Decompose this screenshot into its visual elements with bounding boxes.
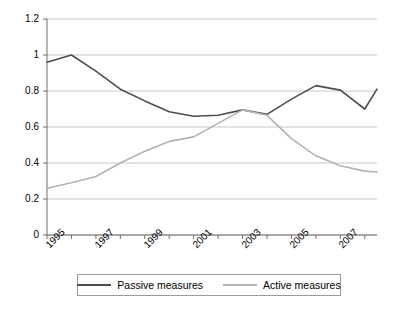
- legend-swatch-active-measures: [223, 284, 257, 286]
- plot-area: [0, 0, 398, 309]
- y-tick-label: 0.4: [0, 158, 39, 168]
- y-tick-label: 0: [0, 230, 39, 240]
- legend-swatch-passive-measures: [77, 284, 111, 286]
- y-tick-label: 1.2: [0, 14, 39, 24]
- series-line: [47, 55, 377, 116]
- series-line: [47, 110, 377, 188]
- legend-label-passive-measures: Passive measures: [117, 279, 203, 291]
- y-tick-label: 0.8: [0, 86, 39, 96]
- legend-item-active-measures: Active measures: [213, 279, 351, 291]
- line-chart: 00.20.40.60.811.219951997199920012003200…: [0, 0, 398, 309]
- legend-item-passive-measures: Passive measures: [67, 279, 213, 291]
- y-tick-label: 1: [0, 50, 39, 60]
- chart-legend: Passive measures Active measures: [77, 274, 341, 296]
- legend-label-active-measures: Active measures: [263, 279, 341, 291]
- y-tick-label: 0.2: [0, 194, 39, 204]
- y-tick-label: 0.6: [0, 122, 39, 132]
